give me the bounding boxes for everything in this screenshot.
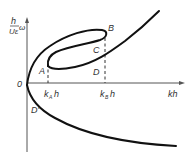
y-axis-label-h: h	[11, 16, 16, 26]
x-axis-arrow-icon	[179, 81, 185, 85]
y-axis-label-omega: ω	[19, 23, 25, 32]
upper-right-curve	[48, 11, 159, 69]
origin-label: 0	[17, 79, 22, 89]
y-axis-label-u: Uε	[9, 27, 19, 36]
point-label-d-prime: D'	[31, 105, 39, 115]
y-axis-arrow-icon	[25, 17, 29, 23]
tick-kb-sub: B	[105, 94, 109, 100]
dispersion-diagram: h Uε ω 0 kh k A h k B h A B C D D'	[0, 0, 191, 157]
point-label-b: B	[108, 23, 114, 33]
point-label-a: A	[38, 66, 45, 76]
tick-kb-h: h	[110, 89, 115, 99]
tick-ka-sub: A	[48, 94, 53, 100]
tick-label-kb-h: k B h	[100, 89, 115, 100]
x-axis-label: kh	[168, 89, 178, 99]
tick-ka-h: h	[54, 89, 59, 99]
tick-label-ka-h: k A h	[44, 89, 59, 100]
point-label-c: C	[93, 45, 100, 55]
point-label-d: D	[93, 67, 100, 77]
x-axis	[27, 81, 185, 85]
